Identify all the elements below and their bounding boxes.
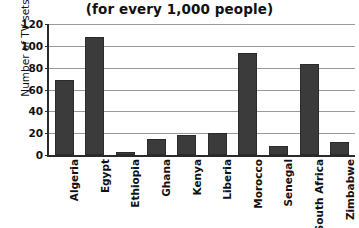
x-axis-label: Senegal xyxy=(261,159,292,227)
x-axis-label: Zimbabwe xyxy=(322,159,353,227)
y-tick-label: 80 xyxy=(28,62,43,74)
bar-slot xyxy=(330,24,349,155)
bars-layer xyxy=(49,24,355,155)
bar xyxy=(147,139,166,155)
bar-slot xyxy=(300,24,319,155)
bar xyxy=(330,142,349,155)
y-tick-label: 0 xyxy=(36,149,43,161)
bar xyxy=(238,53,257,155)
bar-slot xyxy=(269,24,288,155)
x-axis-labels: AlgeriaEgyptEthiopiaGhanaKenyaLiberiaMor… xyxy=(47,159,353,227)
x-axis-label: Kenya xyxy=(169,159,200,227)
bar-slot xyxy=(55,24,74,155)
x-axis-label: Egypt xyxy=(78,159,109,227)
bar-slot xyxy=(147,24,166,155)
y-tick-label: 60 xyxy=(28,84,43,96)
bar xyxy=(116,152,135,155)
bar xyxy=(55,80,74,155)
x-axis-label: South Africa xyxy=(292,159,323,227)
bar-slot xyxy=(85,24,104,155)
y-tick-mark xyxy=(45,155,49,156)
x-axis-label: Algeria xyxy=(47,159,78,227)
bar-chart: (for every 1,000 people) Number of TV se… xyxy=(0,0,359,228)
x-axis-label: Morocco xyxy=(231,159,262,227)
bar xyxy=(85,37,104,155)
bar xyxy=(177,135,196,155)
x-axis-label: Ethiopia xyxy=(108,159,139,227)
plot-area: 020406080100120 xyxy=(47,24,355,157)
y-tick-label: 20 xyxy=(28,127,43,139)
y-tick-label: 120 xyxy=(21,18,43,30)
bar xyxy=(208,133,227,155)
bar xyxy=(269,146,288,155)
x-axis-label-text: Zimbabwe xyxy=(344,159,356,220)
chart-title: (for every 1,000 people) xyxy=(0,1,359,17)
x-axis-label: Liberia xyxy=(200,159,231,227)
y-tick-label: 100 xyxy=(21,40,43,52)
bar-slot xyxy=(177,24,196,155)
y-tick-label: 40 xyxy=(28,105,43,117)
bar xyxy=(300,64,319,155)
bar-slot xyxy=(116,24,135,155)
bar-slot xyxy=(238,24,257,155)
bar-slot xyxy=(208,24,227,155)
x-axis-label: Ghana xyxy=(139,159,170,227)
